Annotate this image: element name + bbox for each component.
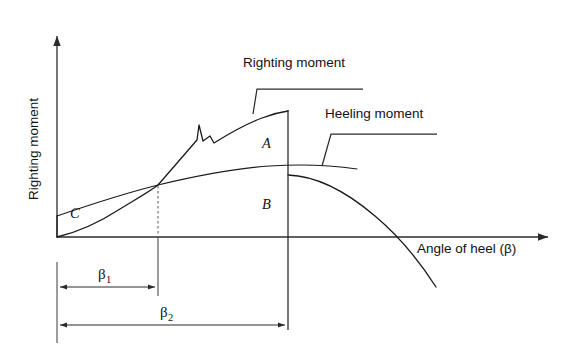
righting-moment-descending-curve <box>288 175 436 287</box>
beta2-label: β <box>160 304 168 320</box>
beta1-subscript: 1 <box>106 274 111 285</box>
righting-moment-curve <box>57 111 288 237</box>
heeling-moment-curve <box>57 165 357 216</box>
stability-diagram: Angle of heel (β) Righting moment Righti… <box>0 0 575 356</box>
x-axis-label: Angle of heel (β) <box>417 241 516 256</box>
righting-moment-descending-group <box>288 175 436 287</box>
region-a-label: A <box>261 135 271 151</box>
heeling-moment-curve-group <box>57 165 357 216</box>
righting-moment-label: Righting moment <box>243 55 345 70</box>
heeling-moment-leader <box>322 134 437 166</box>
beta2-subscript: 2 <box>168 312 173 323</box>
region-c-label: C <box>70 205 80 221</box>
region-b-label: B <box>262 196 271 212</box>
beta1-label: β <box>98 266 106 282</box>
heeling-moment-label: Heeling moment <box>325 106 424 121</box>
y-axis-label: Righting moment <box>26 98 41 200</box>
righting-moment-curve-group <box>57 111 288 237</box>
diagram-canvas: Angle of heel (β) Righting moment Righti… <box>0 0 575 356</box>
leader-lines-group <box>253 89 437 166</box>
